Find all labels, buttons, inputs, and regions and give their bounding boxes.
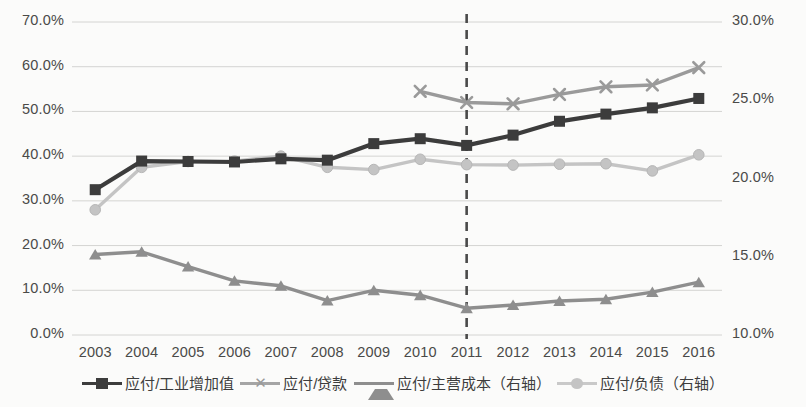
y-axis-right-tick-label: 30.0%: [732, 12, 802, 28]
y-axis-left-tick-label: 70.0%: [2, 12, 64, 28]
legend-marker-triangle-icon: [354, 376, 394, 390]
y-axis-right-tick-label: 20.0%: [732, 169, 802, 185]
series-marker-circle: [508, 160, 519, 171]
legend-label-1: 应付/贷款: [282, 372, 347, 393]
series-marker-circle: [693, 150, 704, 161]
x-axis-tick-label: 2011: [444, 344, 490, 360]
chart-series: [415, 62, 704, 109]
y-axis-left-tick-label: 60.0%: [2, 57, 64, 73]
y-axis-right-tick-label: 10.0%: [732, 325, 802, 341]
series-marker-square: [647, 102, 658, 113]
legend-marker-circle-icon: [557, 376, 597, 390]
legend-label-2: 应付/主营成本（右轴）: [396, 372, 551, 393]
chart-series: [89, 246, 705, 313]
x-axis-tick-label: 2012: [490, 344, 536, 360]
y-axis-left-tick-label: 20.0%: [2, 236, 64, 252]
legend-item-1[interactable]: ✕ 应付/贷款: [240, 372, 347, 393]
legend-item-0[interactable]: 应付/工业增加值: [82, 372, 234, 393]
x-axis-tick-label: 2006: [212, 344, 258, 360]
x-axis-tick-label: 2016: [676, 344, 722, 360]
x-axis-tick-label: 2004: [119, 344, 165, 360]
legend-marker-x-icon: ✕: [240, 376, 280, 390]
series-marker-square: [90, 184, 101, 195]
y-axis-left-tick-label: 40.0%: [2, 146, 64, 162]
legend-item-2[interactable]: 应付/主营成本（右轴）: [354, 372, 551, 393]
x-axis-tick-label: 2007: [258, 344, 304, 360]
series-marker-square: [368, 138, 379, 149]
x-axis-tick-label: 2009: [351, 344, 397, 360]
x-axis-tick-label: 2015: [629, 344, 675, 360]
series-marker-square: [461, 140, 472, 151]
chart-series: [90, 150, 704, 216]
x-axis-tick-label: 2005: [165, 344, 211, 360]
series-marker-circle: [90, 205, 101, 216]
series-marker-square: [275, 153, 286, 164]
series-marker-square: [229, 156, 240, 167]
x-axis-tick-label: 2003: [72, 344, 118, 360]
series-marker-square: [322, 155, 333, 166]
chart-container: 0.0%10.0%20.0%30.0%40.0%50.0%60.0%70.0%1…: [0, 0, 806, 407]
chart-legend: 应付/工业增加值 ✕ 应付/贷款 应付/主营成本（右轴） 应付/负债（右轴）: [0, 372, 806, 393]
series-marker-square: [554, 116, 565, 127]
series-marker-circle: [461, 159, 472, 170]
series-marker-square: [183, 156, 194, 167]
series-marker-square: [600, 109, 611, 120]
y-axis-left-tick-label: 30.0%: [2, 191, 64, 207]
y-axis-left-tick-label: 50.0%: [2, 101, 64, 117]
y-axis-left-tick-label: 0.0%: [2, 325, 64, 341]
chart-series: [90, 93, 705, 195]
series-marker-square: [136, 156, 147, 167]
series-marker-circle: [601, 158, 612, 169]
series-marker-circle: [368, 164, 379, 175]
x-axis-tick-label: 2008: [304, 344, 350, 360]
series-marker-circle: [554, 159, 565, 170]
x-axis-tick-label: 2010: [397, 344, 443, 360]
series-marker-circle: [647, 166, 658, 177]
x-axis-tick-label: 2014: [583, 344, 629, 360]
series-marker-square: [693, 93, 704, 104]
y-axis-right-tick-label: 15.0%: [732, 247, 802, 263]
legend-item-3[interactable]: 应付/负债（右轴）: [557, 372, 724, 393]
series-marker-square: [508, 130, 519, 141]
legend-label-0: 应付/工业增加值: [124, 372, 234, 393]
x-axis-tick-label: 2013: [537, 344, 583, 360]
y-axis-right-tick-label: 25.0%: [732, 90, 802, 106]
series-marker-square: [415, 133, 426, 144]
series-marker-circle: [415, 154, 426, 165]
y-axis-left-tick-label: 10.0%: [2, 280, 64, 296]
legend-marker-square-icon: [82, 376, 122, 390]
legend-label-3: 应付/负债（右轴）: [599, 372, 724, 393]
